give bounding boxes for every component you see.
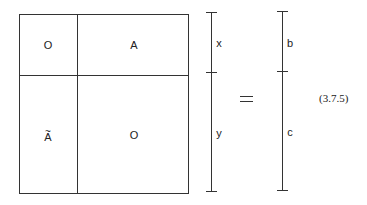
lhs-vector-line	[211, 12, 212, 191]
block-top-left-label: O	[44, 39, 53, 51]
rhs-vector-label-b: b	[287, 38, 293, 49]
matrix-vertical-divider	[77, 15, 78, 193]
block-bottom-right-label: O	[130, 129, 139, 141]
lhs-vector-top-tick	[206, 12, 217, 13]
lhs-vector-label-y: y	[216, 128, 222, 139]
block-top-left: O	[44, 40, 53, 51]
rhs-vector-top-tick	[277, 11, 288, 12]
lhs-vector-label-x: x	[216, 38, 222, 49]
equation-number: (3.7.5)	[319, 93, 348, 104]
lhs-vector-bottom-tick	[206, 191, 217, 192]
block-matrix: O A ~ A O	[19, 14, 189, 194]
lhs-vector-mid-tick	[206, 72, 217, 73]
equals-sign	[240, 96, 253, 102]
matrix-horizontal-divider	[20, 75, 188, 76]
rhs-vector-line	[282, 11, 283, 190]
block-top-right-label: A	[130, 39, 137, 51]
block-bottom-right: O	[130, 130, 139, 141]
block-bottom-left: ~ A	[44, 132, 51, 143]
block-top-right: A	[130, 40, 137, 51]
tilde-accent: ~	[45, 127, 51, 137]
rhs-vector-mid-tick	[277, 71, 288, 72]
rhs-vector-bottom-tick	[277, 190, 288, 191]
rhs-vector-label-c: c	[287, 127, 293, 138]
